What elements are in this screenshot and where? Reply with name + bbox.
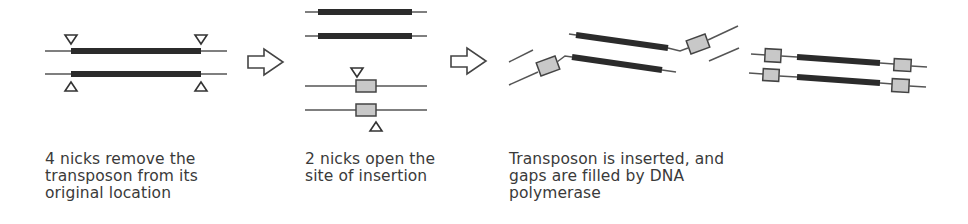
panel-insertion-complete: [749, 49, 927, 93]
target-site-box: [765, 49, 782, 63]
caption-line: transposon from its: [45, 168, 198, 185]
caption-line: site of insertion: [305, 168, 435, 185]
target-site-box: [763, 69, 780, 82]
dna-strand: [708, 26, 738, 40]
dna-strand: [911, 66, 927, 67]
dna-strand: [909, 86, 926, 87]
caption-excision: 4 nicks remove the transposon from its o…: [45, 151, 198, 202]
dna-strand: [569, 34, 576, 35]
right-arrow-icon: [451, 48, 486, 74]
dna-strand: [668, 48, 688, 51]
target-site-box: [356, 80, 376, 92]
caption-insertion: Transposon is inserted, and gaps are fil…: [509, 151, 724, 202]
dna-strand: [662, 70, 676, 72]
target-site-box: [686, 34, 710, 54]
dna-strand: [880, 63, 894, 64]
dna-strand: [509, 50, 533, 62]
nick-triangle-icon: [65, 35, 77, 44]
nick-triangle-icon: [195, 82, 207, 91]
dna-strand: [709, 48, 739, 61]
caption-line: polymerase: [509, 185, 724, 202]
caption-line: 2 nicks open the: [305, 151, 435, 168]
panel-target-site: [305, 12, 427, 131]
caption-line: 4 nicks remove the: [45, 151, 198, 168]
dna-strand: [751, 54, 766, 55]
dna-strand: [509, 72, 538, 85]
target-site-box: [356, 104, 376, 116]
dna-strand: [749, 73, 763, 74]
transposon-bar: [797, 57, 880, 63]
target-site-box: [894, 59, 912, 72]
panel-excision: [45, 35, 227, 91]
transposon-bar: [797, 77, 880, 83]
target-site-box: [536, 56, 560, 76]
nick-triangle-icon: [370, 122, 382, 131]
dna-strand: [781, 56, 797, 57]
transposon-bar: [576, 35, 668, 48]
nick-triangle-icon: [65, 82, 77, 91]
nick-triangle-icon: [351, 68, 363, 77]
right-arrow-icon: [248, 49, 283, 75]
nick-triangle-icon: [195, 35, 207, 44]
dna-strand: [779, 76, 797, 77]
target-site-box: [892, 79, 910, 93]
dna-strand: [557, 56, 572, 62]
caption-line: original location: [45, 185, 198, 202]
caption-line: gaps are filled by DNA: [509, 168, 724, 185]
caption-line: Transposon is inserted, and: [509, 151, 724, 168]
transposon-bar: [572, 57, 662, 70]
dna-strand: [880, 83, 893, 84]
caption-target-site: 2 nicks open the site of insertion: [305, 151, 435, 185]
panel-insertion-intermediate: [509, 26, 739, 85]
